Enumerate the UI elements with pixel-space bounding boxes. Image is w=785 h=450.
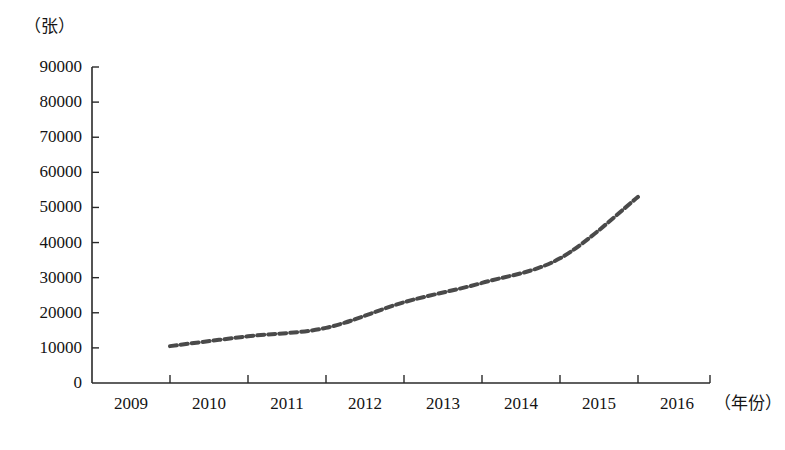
x-axis-tick-marks — [170, 375, 710, 383]
y-tick-label: 80000 — [0, 93, 82, 110]
y-tick-label: 70000 — [0, 128, 82, 145]
y-tick-label: 30000 — [0, 269, 82, 286]
y-axis-tick-marks — [92, 67, 99, 348]
data-series-group — [170, 197, 638, 346]
x-tick-label: 2012 — [325, 395, 405, 412]
x-tick-label: 2014 — [481, 395, 561, 412]
x-tick-label: 2010 — [169, 395, 249, 412]
y-tick-label: 10000 — [0, 339, 82, 356]
y-tick-label: 50000 — [0, 198, 82, 215]
x-tick-label: 2013 — [403, 395, 483, 412]
y-tick-label: 90000 — [0, 58, 82, 75]
axis-lines — [92, 67, 710, 383]
data-line — [170, 197, 638, 346]
x-axis-unit-label: （年份） — [714, 395, 782, 412]
x-tick-label: 2011 — [247, 395, 327, 412]
y-tick-label: 60000 — [0, 163, 82, 180]
y-tick-label: 0 — [0, 374, 82, 391]
x-tick-label: 2015 — [559, 395, 639, 412]
y-tick-label: 40000 — [0, 234, 82, 251]
y-tick-label: 20000 — [0, 304, 82, 321]
x-tick-label: 2016 — [637, 395, 717, 412]
plot-area — [0, 0, 785, 450]
x-tick-label: 2009 — [91, 395, 171, 412]
chart-canvas — [0, 0, 785, 450]
chart-figure: （张） 900008000070000600005000040000300002… — [0, 0, 785, 450]
